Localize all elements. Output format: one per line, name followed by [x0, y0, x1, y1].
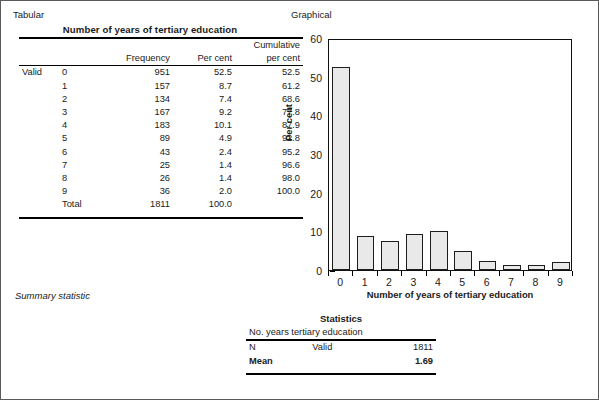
- chart-bar: [454, 251, 472, 270]
- header-cell: [19, 52, 59, 66]
- statistics-bottom-rule: [246, 368, 436, 374]
- header-cell: [19, 38, 59, 52]
- x-axis-tick-mark: [377, 271, 378, 276]
- statistic-sublabel-cell: Valid: [309, 340, 372, 354]
- percent-cell: 52.5: [173, 66, 235, 80]
- percent-cell: 2.0: [173, 185, 235, 198]
- x-axis-tick-mark: [426, 271, 427, 276]
- rule: [19, 212, 303, 218]
- x-axis-tick-label: 5: [459, 276, 465, 288]
- frequency-table: CumulativeFrequencyPer centper centValid…: [19, 37, 303, 219]
- statistics-table-block: Statistics No. years tertiary educationN…: [246, 313, 436, 375]
- y-axis-tick-label: 0: [316, 265, 322, 277]
- y-axis-tick-label: 40: [310, 110, 322, 122]
- frequency-table-block: Number of years of tertiary education Cu…: [19, 24, 281, 219]
- table-row: 7251.496.6: [19, 159, 303, 172]
- group-label-cell: [19, 93, 59, 106]
- group-label-cell: [19, 146, 59, 159]
- chart-bars: [329, 40, 571, 270]
- figure-panel: Tabular Graphical Summary statistic Numb…: [0, 0, 599, 400]
- x-axis-tick-label: 3: [410, 276, 416, 288]
- table-row: 418310.187.9: [19, 119, 303, 132]
- chart-plot-area: [328, 39, 572, 271]
- header-cell: [59, 38, 109, 52]
- header-cell: [173, 38, 235, 52]
- x-axis-tick-label: 7: [508, 276, 514, 288]
- chart-y-axis-ticks: 0102030405060: [292, 21, 322, 261]
- group-label-cell: [19, 119, 59, 132]
- statistic-label-cell: Mean: [246, 355, 309, 368]
- x-axis-tick-mark: [474, 271, 475, 276]
- percent-cell: 10.1: [173, 119, 235, 132]
- table-row: 11578.761.2: [19, 80, 303, 93]
- category-cell: 1: [59, 80, 109, 93]
- group-label-cell: [19, 80, 59, 93]
- table-row: Valid095152.552.5: [19, 66, 303, 80]
- x-axis-tick-label: 6: [484, 276, 490, 288]
- frequency-cell: 25: [109, 159, 173, 172]
- group-label-cell: Valid: [19, 66, 59, 80]
- statistic-value-cell: 1811: [373, 340, 436, 354]
- statistics-table-title: Statistics: [246, 313, 436, 326]
- statistic-value-cell: 1.69: [373, 355, 436, 368]
- group-label-cell: [19, 106, 59, 119]
- chart-x-axis-label: Number of years of tertiary education: [328, 289, 572, 300]
- statistic-label-cell: N: [246, 340, 309, 354]
- statistic-sublabel-cell: [309, 355, 372, 368]
- chart-bar: [406, 234, 424, 270]
- total-percent-cell: 100.0: [173, 198, 235, 211]
- header-cell: [59, 52, 109, 66]
- percent-cell: 4.9: [173, 132, 235, 145]
- category-cell: 7: [59, 159, 109, 172]
- header-cell-frequency: Frequency: [109, 52, 173, 66]
- bar-chart: Per cent 0102030405060 0123456789 Number…: [284, 21, 590, 296]
- frequency-table-title: Number of years of tertiary education: [19, 24, 281, 37]
- rule: [246, 368, 436, 374]
- category-cell: 3: [59, 106, 109, 119]
- x-axis-tick-mark: [572, 271, 573, 276]
- frequency-header-row-top: Cumulative: [19, 38, 303, 52]
- category-cell: 9: [59, 185, 109, 198]
- table-row: 6432.495.2: [19, 146, 303, 159]
- y-axis-tick-label: 10: [310, 226, 322, 238]
- category-cell: 8: [59, 172, 109, 185]
- statistics-table: No. years tertiary educationNValid1811Me…: [246, 326, 436, 375]
- graphical-caption: Graphical: [291, 9, 332, 20]
- y-axis-tick-label: 50: [310, 72, 322, 84]
- statistics-variable-row: No. years tertiary education: [246, 326, 436, 340]
- chart-bar: [503, 265, 521, 270]
- frequency-cell: 43: [109, 146, 173, 159]
- chart-bar: [552, 262, 570, 270]
- total-frequency-cell: 1811: [109, 198, 173, 211]
- statistics-variable-label: No. years tertiary education: [246, 326, 436, 340]
- percent-cell: 2.4: [173, 146, 235, 159]
- category-cell: 5: [59, 132, 109, 145]
- y-axis-tick-label: 20: [310, 188, 322, 200]
- frequency-cell: 157: [109, 80, 173, 93]
- y-axis-tick-label: 60: [310, 33, 322, 45]
- chart-bar: [381, 241, 399, 270]
- group-label-cell: [19, 172, 59, 185]
- group-label-cell: [19, 132, 59, 145]
- frequency-cell: 89: [109, 132, 173, 145]
- table-row: 5894.992.8: [19, 132, 303, 145]
- x-axis-tick-label: 4: [435, 276, 441, 288]
- chart-bar: [430, 231, 448, 270]
- x-axis-tick-label: 0: [337, 276, 343, 288]
- chart-bar: [528, 265, 546, 270]
- frequency-cell: 26: [109, 172, 173, 185]
- chart-bar: [357, 236, 375, 270]
- table-row: 21347.468.6: [19, 93, 303, 106]
- frequency-cell: 134: [109, 93, 173, 106]
- group-label-cell: [19, 185, 59, 198]
- x-axis-tick-label: 8: [532, 276, 538, 288]
- y-axis-tick-label: 30: [310, 149, 322, 161]
- frequency-header-row: FrequencyPer centper cent: [19, 52, 303, 66]
- table-bottom-rule: [19, 212, 303, 218]
- group-label-cell: [19, 198, 59, 211]
- percent-cell: 9.2: [173, 106, 235, 119]
- percent-cell: 1.4: [173, 172, 235, 185]
- x-axis-tick-mark: [523, 271, 524, 276]
- x-axis-tick-mark: [450, 271, 451, 276]
- chart-bar: [479, 261, 497, 270]
